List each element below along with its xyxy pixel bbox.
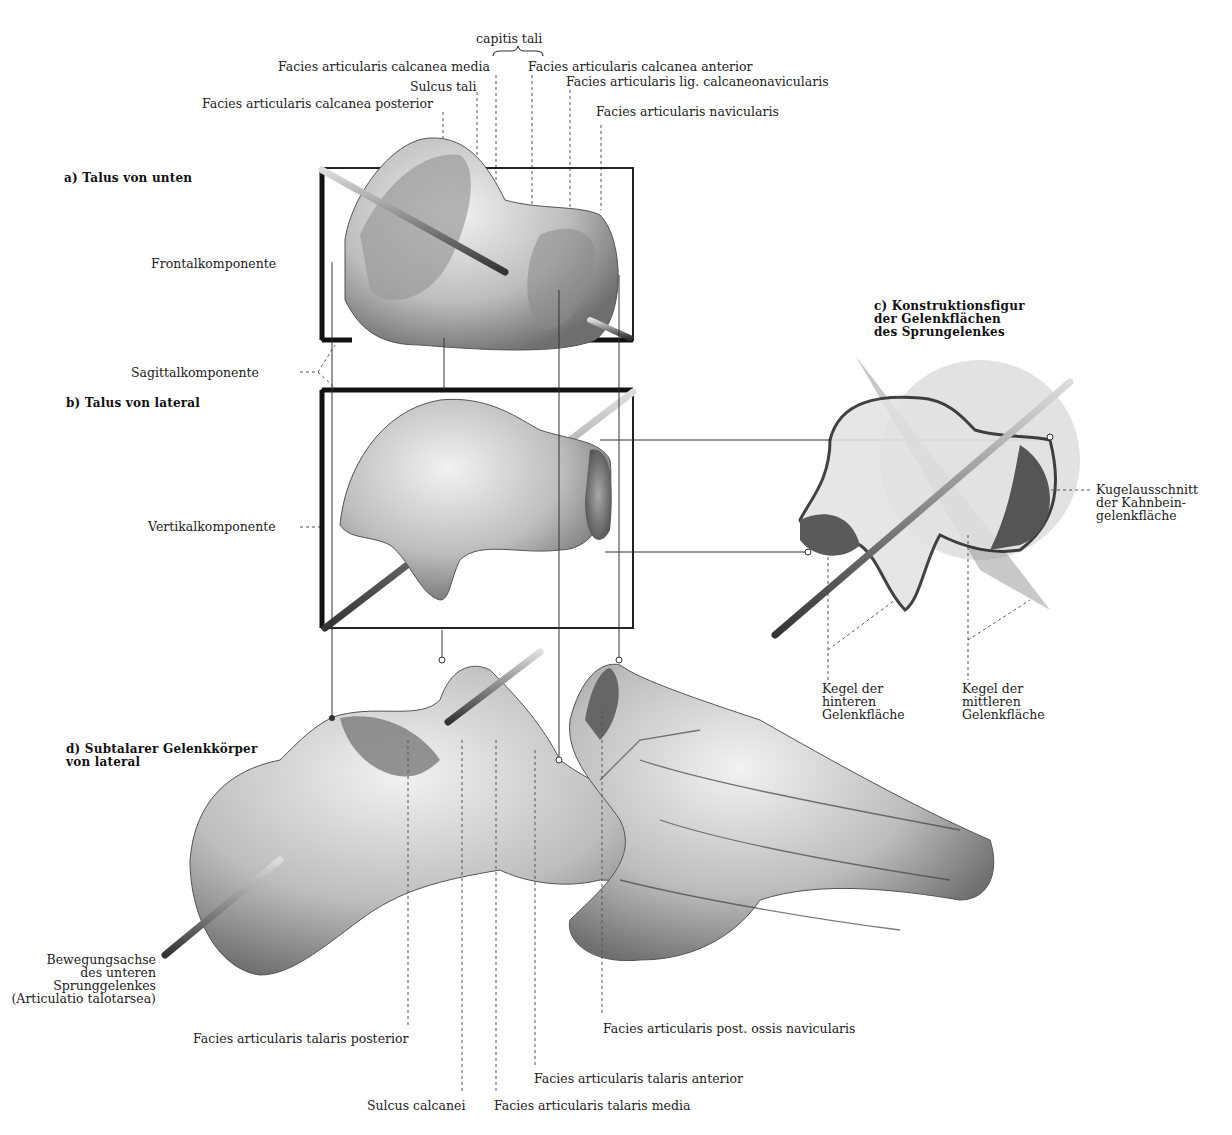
label-talaris-anterior: Facies articularis talaris anterior — [534, 1072, 743, 1086]
label-calcanea-posterior: Facies articularis calcanea posterior — [202, 97, 433, 111]
label-talaris-posterior: Facies articularis talaris posterior — [193, 1032, 409, 1046]
label-sagittalkomponente: Sagittalkomponente — [131, 366, 259, 380]
panel-a-title: a) Talus von unten — [64, 172, 192, 185]
construction-figure — [775, 355, 1080, 635]
label-bewegungsachse: Bewegungsachse des unteren Sprunggelenke… — [11, 953, 156, 1005]
label-calcanea-anterior: Facies articularis calcanea anterior — [528, 60, 753, 74]
label-sulcus-calcanei: Sulcus calcanei — [367, 1099, 465, 1113]
label-capitis-tali: capitis tali — [476, 32, 542, 46]
label-lig-calcaneonavicularis: Facies articularis lig. calcaneonavicula… — [566, 75, 829, 89]
panel-b-title: b) Talus von lateral — [66, 397, 200, 410]
label-navicularis: Facies articularis navicularis — [596, 105, 779, 119]
capitis-tali-brace — [493, 46, 543, 56]
label-frontalkomponente: Frontalkomponente — [151, 257, 276, 271]
label-sulcus-tali: Sulcus tali — [410, 80, 477, 94]
label-kugelausschnitt: Kugelausschnitt der Kahnbein- gelenkfläc… — [1096, 483, 1198, 522]
panel-d-title: d) Subtalarer Gelenkkörper von lateral — [66, 743, 257, 769]
label-kegel-hinteren: Kegel der hinteren Gelenkfläche — [822, 682, 905, 721]
talus-from-below — [322, 138, 630, 350]
label-kegel-mittleren: Kegel der mittleren Gelenkfläche — [962, 682, 1045, 721]
talus-lateral — [325, 392, 633, 628]
label-talaris-media: Facies articularis talaris media — [494, 1099, 690, 1113]
label-post-ossis-navicularis: Facies articularis post. ossis navicular… — [603, 1022, 855, 1036]
label-vertikalkomponente: Vertikalkomponente — [148, 520, 276, 534]
label-calcanea-media: Facies articularis calcanea media — [278, 60, 490, 74]
panel-c-title: c) Konstruktionsfigur der Gelenkflächen … — [874, 300, 1025, 339]
